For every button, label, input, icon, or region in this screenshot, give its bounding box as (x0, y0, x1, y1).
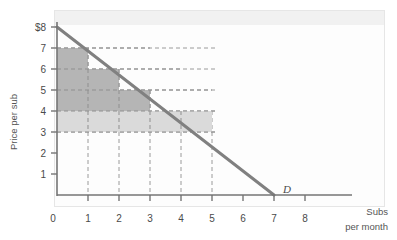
x-tick-label-1: 1 (85, 213, 91, 224)
y-tick-label-4: 4 (40, 106, 46, 117)
x-tick-label-0: 0 (50, 213, 56, 224)
y-tick-label-8: $8 (35, 22, 47, 33)
y-tick-label-5: 5 (40, 85, 46, 96)
x-tick-label-4: 4 (178, 213, 184, 224)
x-tick-label-7: 7 (271, 213, 277, 224)
x-tick-label-3: 3 (147, 213, 153, 224)
block-3-dark (119, 90, 150, 111)
y-axis-title: Price per sub (8, 94, 19, 150)
demand-curve-figure: $8 7 6 5 4 3 2 1 0 1 2 3 4 5 6 7 8 Price… (0, 0, 397, 240)
x-tick-label-2: 2 (116, 213, 122, 224)
x-axis-title-line1: Subs (366, 206, 388, 217)
y-tick-label-1: 1 (40, 169, 46, 180)
panel-top-band (55, 11, 384, 25)
x-tick-label-5: 5 (209, 213, 215, 224)
y-tick-label-6: 6 (40, 64, 46, 75)
chart-svg: $8 7 6 5 4 3 2 1 0 1 2 3 4 5 6 7 8 Price… (0, 0, 397, 240)
y-tick-label-3: 3 (40, 127, 46, 138)
x-tick-label-6: 6 (240, 213, 246, 224)
block-1-dark (57, 48, 88, 111)
y-tick-label-7: 7 (40, 43, 46, 54)
y-tick-label-2: 2 (40, 148, 46, 159)
demand-curve-label: D (282, 183, 291, 195)
x-tick-label-8: 8 (302, 213, 308, 224)
x-axis-title-line2: per month (345, 221, 388, 232)
